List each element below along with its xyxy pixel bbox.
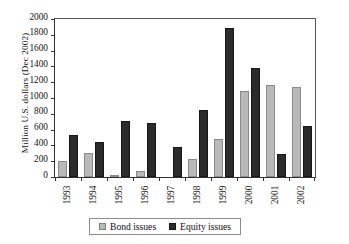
bar-equity-1994 (95, 142, 105, 177)
bar-group (133, 19, 159, 177)
bar-group (211, 19, 237, 177)
y-axis-tick-label: 1400 (29, 60, 48, 69)
bar-equity-1997 (173, 147, 183, 177)
bar-bond-1995 (110, 175, 120, 177)
y-axis-tick-label: 400 (34, 139, 48, 148)
legend-item-bond-issues: Bond issues (99, 221, 156, 232)
bar-equity-1996 (147, 123, 157, 177)
y-axis-tick-label: 2000 (29, 13, 48, 22)
x-axis-label-1993: 1993 (62, 178, 72, 212)
x-axis-label-1994: 1994 (88, 178, 98, 212)
bar-group (289, 19, 315, 177)
y-axis-tick-label: 1000 (29, 92, 48, 101)
bar-bond-1993 (58, 161, 68, 177)
y-axis-tick-label: 1800 (29, 28, 48, 37)
x-axis-label-2002: 2002 (296, 178, 306, 212)
bar-bond-2001 (266, 85, 276, 177)
x-axis-labels: 1993199419951996199719981999200020012002 (54, 180, 316, 214)
bar-equity-2000 (251, 68, 261, 177)
chart-legend: Bond issues Equity issues (89, 218, 241, 235)
plot-area: 2000180016001400120010008006004002000 (54, 18, 316, 178)
x-axis-label-1997: 1997 (166, 178, 176, 212)
x-axis-label-1999: 1999 (218, 178, 228, 212)
x-axis-label-2000: 2000 (244, 178, 254, 212)
bar-group (263, 19, 289, 177)
x-axis-label-1995: 1995 (114, 178, 124, 212)
bar-group (237, 19, 263, 177)
y-axis-tick-label: 600 (34, 123, 48, 132)
x-axis-label-1998: 1998 (192, 178, 202, 212)
y-axis-tick-label: 0 (43, 171, 48, 180)
bar-equity-1999 (225, 28, 235, 177)
x-axis-label-1996: 1996 (140, 178, 150, 212)
bar-chart-figure: Million U.S. dollars (Dec 2002) 20001800… (0, 0, 349, 244)
equity-swatch-icon (169, 223, 176, 230)
bar-equity-1993 (69, 135, 79, 177)
bar-equity-1998 (199, 110, 209, 177)
bar-group (185, 19, 211, 177)
bar-bond-2002 (292, 87, 302, 177)
bar-group (81, 19, 107, 177)
bar-bond-1999 (214, 139, 224, 177)
bars-layer (55, 19, 315, 177)
y-axis-tick-label: 200 (34, 155, 48, 164)
bond-swatch-icon (99, 223, 106, 230)
bar-bond-2000 (240, 91, 250, 178)
bar-bond-1996 (136, 171, 146, 177)
bar-group (55, 19, 81, 177)
y-axis-tick-label: 1600 (29, 44, 48, 53)
bar-equity-1995 (121, 121, 131, 177)
bar-bond-1998 (188, 159, 198, 177)
y-axis-tick-label: 1200 (29, 76, 48, 85)
legend-item-equity-issues: Equity issues (169, 221, 231, 232)
legend-label-equity-issues: Equity issues (180, 221, 231, 232)
y-axis-tick-label: 800 (34, 107, 48, 116)
bar-group (159, 19, 185, 177)
bar-bond-1994 (84, 153, 94, 177)
x-axis-label-2001: 2001 (270, 178, 280, 212)
bar-equity-2001 (277, 154, 287, 177)
bar-group (107, 19, 133, 177)
bar-equity-2002 (303, 126, 313, 177)
legend-label-bond-issues: Bond issues (110, 221, 156, 232)
